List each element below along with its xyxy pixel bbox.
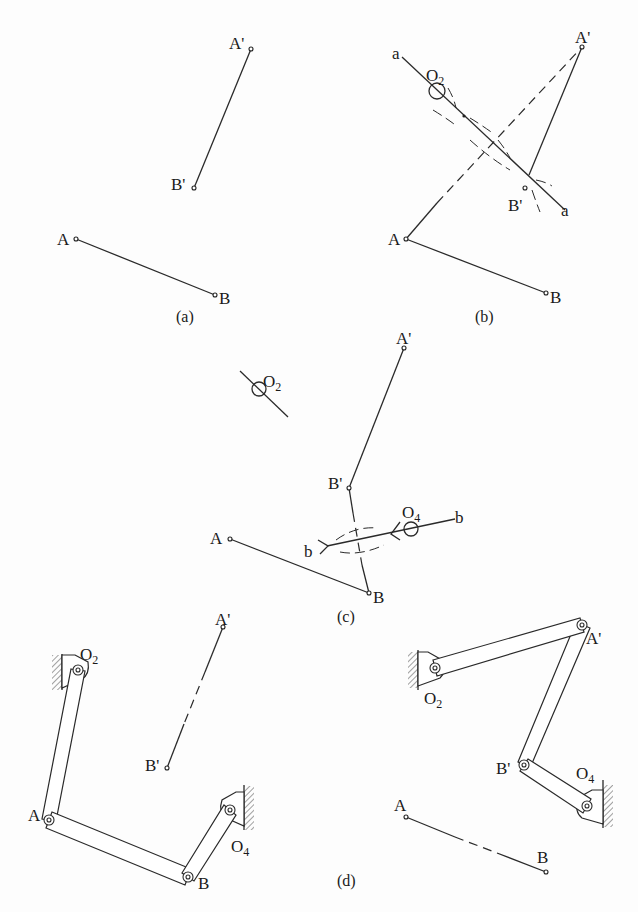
label-b-prime: B' (171, 175, 185, 194)
construction-arc (532, 190, 540, 212)
rocker-link-o4-b (182, 805, 236, 881)
perpendicular-bisector-b-b (327, 519, 455, 546)
segment-ab-left (406, 817, 455, 837)
label-b: B (373, 588, 384, 607)
pin-o4-inner (585, 804, 589, 808)
point-b (367, 591, 371, 595)
label-b-prime: B' (328, 474, 342, 493)
label-b-prime: B' (496, 759, 510, 778)
label-o4: O4 (576, 764, 594, 786)
midpoint-marker (462, 114, 465, 117)
caption-b: (b) (475, 308, 494, 326)
label-a: A (28, 806, 41, 825)
point-b-prime (523, 186, 527, 190)
ground-hatch-o2 (408, 652, 418, 688)
four-bar-linkage-synthesis-figure: A B A' B' (a) A B A' B' a a O2 (b) (0, 0, 638, 912)
segment-a-prime-b-prime-upper (205, 627, 223, 672)
label-b: B (219, 289, 230, 308)
label-o2: O2 (424, 689, 442, 711)
label-o4: O4 (231, 837, 249, 859)
segment-b-prime-b-lower (362, 565, 369, 593)
point-a-prime (249, 47, 253, 51)
point-b-prime (165, 766, 169, 770)
caption-c: (c) (337, 608, 355, 626)
ground-hatch-o4 (244, 786, 254, 830)
point-a (228, 537, 232, 541)
arrow-mark-b (318, 540, 328, 554)
point-a (404, 815, 408, 819)
label-a: A (388, 230, 401, 249)
segment-a-prime-b-prime (194, 49, 251, 188)
label-a-start: a (392, 44, 400, 63)
point-a (404, 237, 408, 241)
label-a-prime: A' (396, 329, 411, 348)
segment-a-prime-b-prime-dashed (184, 672, 205, 724)
diagram-svg: A B A' B' (a) A B A' B' a a O2 (b) (0, 0, 638, 912)
point-b (213, 293, 217, 297)
segment-ab (230, 539, 369, 593)
label-o2: O2 (80, 645, 98, 667)
pin-b-prime-inner (522, 763, 526, 767)
label-a: A (210, 529, 223, 548)
panel-d-left: O2 O4 A B A' B' (28, 610, 254, 893)
pin-b-inner (186, 875, 190, 879)
ground-hatch-o2 (52, 655, 62, 690)
construction-arc (340, 545, 384, 553)
point-b (544, 870, 548, 874)
construction-arc (470, 140, 510, 170)
segment-ab (76, 239, 215, 295)
label-a-prime: A' (586, 629, 601, 648)
panel-a: A B A' B' (a) (57, 34, 253, 326)
pin-o2-inner (76, 668, 80, 672)
label-b: B (550, 288, 561, 307)
label-a: A (394, 796, 407, 815)
label-a: A (57, 230, 70, 249)
point-b-prime (347, 486, 351, 490)
pin-a-prime-inner (580, 623, 584, 627)
segment-ab (406, 239, 546, 293)
point-b-prime (192, 186, 196, 190)
coupler-link-a-b (46, 812, 191, 885)
label-o2: O2 (263, 372, 281, 394)
segment-a-prime-to-intersection (529, 47, 582, 175)
caption-d: (d) (337, 872, 356, 890)
panel-d-right: O2 O4 A B A' B' (d) (337, 618, 613, 890)
point-a (74, 237, 78, 241)
label-b-start: b (304, 542, 313, 561)
label-b-prime: B' (508, 196, 522, 215)
label-b: B (198, 874, 209, 893)
label-o2: O2 (426, 66, 444, 88)
segment-b-prime-b-upper (349, 488, 353, 513)
label-a-prime: A' (229, 34, 244, 53)
pin-o4-inner (228, 808, 232, 812)
segment-ab-dashed (455, 837, 497, 853)
label-a-prime: A' (575, 28, 590, 47)
panel-c: A B A' B' b b O2 O4 (c) (210, 329, 464, 626)
segment-a-prime-b-prime (349, 348, 404, 488)
label-o4: O4 (402, 503, 420, 525)
crank-link-o2-a (42, 669, 85, 821)
label-b-prime: B' (145, 756, 159, 775)
construction-arc (448, 88, 456, 108)
ground-hatch-o4 (603, 785, 613, 827)
label-b-end: b (455, 508, 464, 527)
point-b (544, 291, 548, 295)
construction-arc (433, 110, 454, 124)
segment-a-solid (406, 203, 437, 239)
caption-a: (a) (176, 308, 194, 326)
segment-a-prime-b-prime-lower (167, 724, 184, 768)
label-b: B (537, 848, 548, 867)
label-a-end: a (561, 201, 569, 220)
construction-line-a-a-prime (437, 47, 582, 203)
pin-a-inner (47, 818, 51, 822)
pin-o2-inner (433, 666, 437, 670)
panel-b: A B A' B' a a O2 (b) (388, 28, 590, 326)
label-a-prime: A' (215, 610, 230, 629)
